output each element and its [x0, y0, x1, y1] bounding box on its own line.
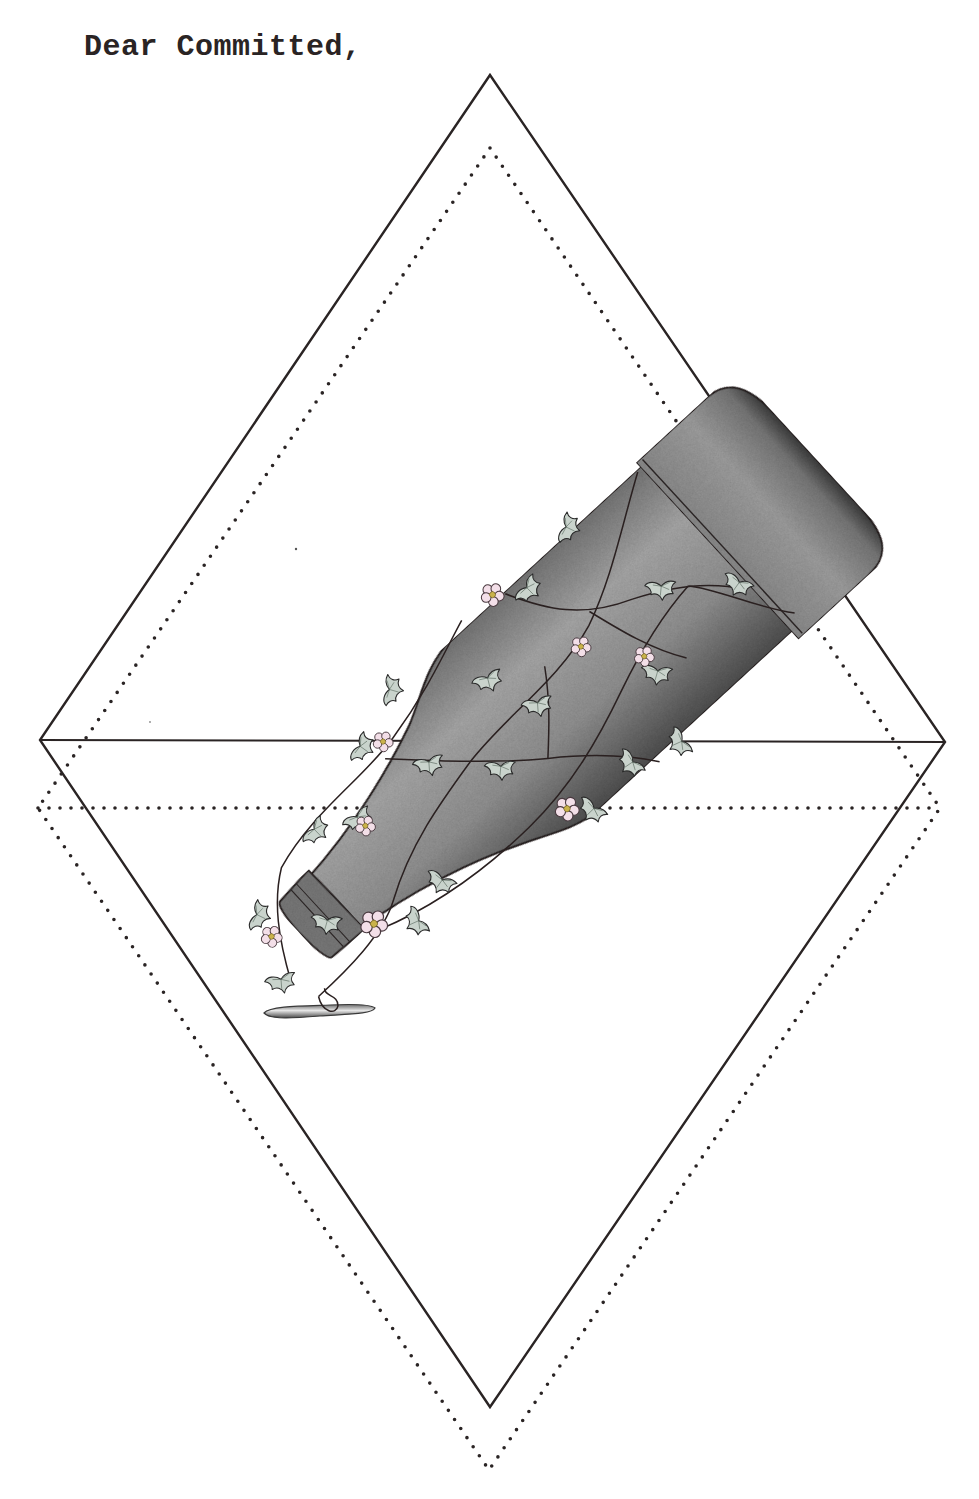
illustration — [0, 0, 979, 1499]
stray-mark — [295, 548, 297, 550]
stray-mark — [149, 721, 151, 723]
spill-puddle — [264, 1004, 375, 1017]
